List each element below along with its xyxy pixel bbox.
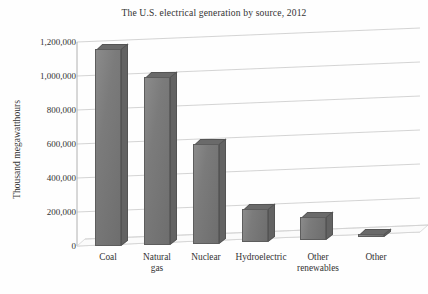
y-tick-200000: 200,000 [47,207,76,217]
gridline-600000 [77,130,420,144]
bar-nuclear[interactable] [193,144,219,244]
bar-other-renewables[interactable] [300,217,326,240]
plot-area: 0 200,000 400,000 600,000 800,000 1,000,… [0,0,428,294]
y-tick-600000: 600,000 [47,139,76,149]
bar-hydroelectric-side [268,204,275,242]
gridline-800000 [77,96,420,110]
x-label-other-renewables-line-2: renewables [286,263,350,274]
bar-natural-gas-side [170,72,177,245]
gridline-1000000 [77,62,420,76]
y-tick-0: 0 [72,241,77,251]
bar-hydroelectric[interactable] [242,209,268,242]
bar-other-face [358,234,384,237]
x-label-natural-gas-line-2: gas [127,263,187,274]
x-label-other-renewables: Other renewables [286,252,350,274]
y-tick-1200000: 1,200,000 [40,37,76,47]
bar-other[interactable] [358,234,384,237]
bar-nuclear-side [219,139,226,244]
x-label-other-line-1: Other [346,252,406,263]
gridline-400000 [77,164,420,178]
bar-coal[interactable] [95,49,121,246]
y-tick-800000: 800,000 [47,105,76,115]
chart-figure: The U.S. electrical generation by source… [0,0,428,294]
bar-natural-gas[interactable] [144,77,170,245]
bar-hydroelectric-face [242,209,268,242]
bar-nuclear-face [193,144,219,244]
bar-natural-gas-face [144,77,170,245]
x-label-other-renewables-line-1: Other [286,252,350,263]
bar-coal-face [95,49,121,246]
y-tick-1000000: 1,000,000 [40,71,76,81]
gridline-1200000 [77,28,420,42]
y-tick-400000: 400,000 [47,173,76,183]
bar-coal-side [121,44,128,246]
x-label-other: Other [346,252,406,263]
bar-other-renewables-face [300,217,326,240]
